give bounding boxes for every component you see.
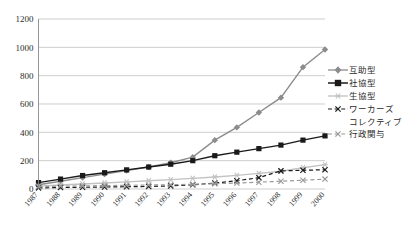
x-tick-1988: 1988 — [45, 190, 62, 208]
series-0 — [35, 46, 328, 188]
legend: 互助型 社協型 生協型 — [327, 64, 403, 141]
line-chart: 020040060080010001200 198719881989199019… — [0, 0, 403, 236]
x-axis-tick-labels: 1987198819891990199119921993199419951996… — [23, 190, 327, 208]
y-tick-800: 800 — [20, 71, 34, 81]
x-tick-1987: 1987 — [23, 190, 40, 208]
y-tick-1200: 1200 — [16, 14, 35, 24]
gridlines — [39, 19, 326, 189]
legend-item-2: 生協型 — [327, 90, 403, 103]
legend-item-3: ワーカーズ — [327, 103, 403, 116]
y-axis-tick-labels: 020040060080010001200 — [16, 14, 35, 194]
legend-label-2: 生協型 — [349, 90, 376, 102]
x-tick-1996: 1996 — [221, 190, 238, 208]
legend-marker-x-dashed-icon — [327, 103, 349, 115]
x-tick-1990: 1990 — [89, 190, 106, 208]
x-tick-1991: 1991 — [111, 190, 128, 208]
legend-marker-diamond-icon — [327, 64, 349, 76]
x-tick-1989: 1989 — [67, 190, 84, 208]
legend-label-0: 互助型 — [349, 64, 376, 76]
legend-label-1: 社協型 — [349, 77, 376, 89]
y-tick-400: 400 — [20, 128, 34, 138]
legend-item-1: 社協型 — [327, 77, 403, 90]
data-series-layer — [35, 46, 328, 190]
x-tick-1998: 1998 — [265, 190, 282, 208]
legend-item-0: 互助型 — [327, 64, 403, 77]
x-tick-1995: 1995 — [199, 190, 216, 208]
y-tick-200: 200 — [20, 156, 34, 166]
y-tick-1000: 1000 — [16, 43, 35, 53]
x-tick-1992: 1992 — [133, 190, 150, 208]
x-tick-1994: 1994 — [177, 190, 194, 208]
y-tick-600: 600 — [20, 99, 34, 109]
legend-item-4: 行政関与 — [327, 128, 403, 141]
legend-marker-square-icon — [327, 77, 349, 89]
legend-label-3-continued: コレクティブ — [349, 116, 403, 128]
x-tick-1993: 1993 — [155, 190, 172, 208]
x-tick-1997: 1997 — [243, 190, 260, 208]
legend-label-3: ワーカーズ — [349, 103, 394, 115]
x-tick-1999: 1999 — [287, 190, 304, 208]
legend-marker-x-dashed-gray-icon — [327, 128, 349, 140]
legend-marker-asterisk-icon — [327, 90, 349, 102]
x-tick-2000: 2000 — [309, 190, 326, 208]
legend-label-4: 行政関与 — [349, 128, 385, 140]
